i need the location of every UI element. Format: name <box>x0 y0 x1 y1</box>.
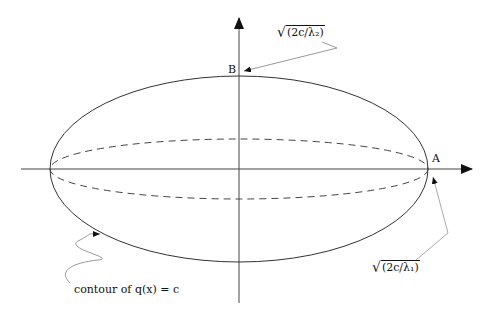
lambda1-annotation: √ (2c/λ₁) <box>372 260 420 274</box>
contour-label: contour of q(x) = c <box>74 283 179 296</box>
leader-lambda2 <box>244 42 337 71</box>
point-b-label: B <box>228 63 236 76</box>
lambda1-expression: (2c/λ₁) <box>381 260 420 274</box>
sqrt-icon: √ <box>372 260 381 274</box>
leader-contour <box>65 234 102 283</box>
lambda2-annotation: √ (2c/λ₂) <box>277 25 325 39</box>
lambda2-expression: (2c/λ₂) <box>286 25 325 39</box>
point-a-label: A <box>432 152 440 165</box>
leader-lambda1 <box>416 177 448 260</box>
ellipse-contour-diagram: B A √ (2c/λ₂) √ (2c/λ₁) contour of q(x) … <box>0 0 490 321</box>
sqrt-icon: √ <box>277 25 286 39</box>
